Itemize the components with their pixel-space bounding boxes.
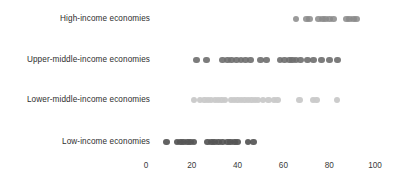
dots-area-lower-middle-income bbox=[0, 87, 401, 113]
data-point bbox=[330, 16, 337, 23]
data-point bbox=[263, 57, 270, 64]
chart-row-low-income: Low-income economies bbox=[0, 129, 401, 155]
data-point bbox=[318, 57, 325, 64]
x-tick-label: 20 bbox=[187, 161, 196, 170]
data-point bbox=[247, 57, 254, 64]
x-tick-label: 0 bbox=[144, 161, 149, 170]
data-point bbox=[293, 16, 300, 23]
dots-area-low-income bbox=[0, 129, 401, 155]
data-point bbox=[163, 139, 170, 146]
data-point bbox=[193, 57, 200, 64]
data-point bbox=[310, 57, 317, 64]
dot-strip-chart: High-income economies Upper-middle-incom… bbox=[0, 0, 401, 186]
dots-area-upper-middle-income bbox=[0, 47, 401, 73]
data-point bbox=[353, 16, 360, 23]
data-point bbox=[326, 57, 333, 64]
data-point bbox=[313, 97, 319, 103]
chart-row-high-income: High-income economies bbox=[0, 6, 401, 32]
x-tick-label: 40 bbox=[233, 161, 242, 170]
x-axis: 020406080100 bbox=[0, 161, 401, 183]
data-point bbox=[234, 139, 241, 146]
x-tick-label: 60 bbox=[279, 161, 288, 170]
data-point bbox=[306, 16, 313, 23]
dots-area-high-income bbox=[0, 6, 401, 32]
data-point bbox=[203, 57, 210, 64]
x-tick-label: 100 bbox=[368, 161, 382, 170]
chart-row-lower-middle-income: Lower-middle-income economies bbox=[0, 87, 401, 113]
data-point bbox=[296, 97, 302, 103]
data-point bbox=[334, 97, 340, 103]
x-tick-label: 80 bbox=[325, 161, 334, 170]
data-point bbox=[334, 57, 341, 64]
data-point bbox=[274, 97, 280, 103]
data-point bbox=[191, 139, 198, 146]
chart-row-upper-middle-income: Upper-middle-income economies bbox=[0, 47, 401, 73]
data-point bbox=[297, 57, 304, 64]
data-point bbox=[250, 139, 257, 146]
